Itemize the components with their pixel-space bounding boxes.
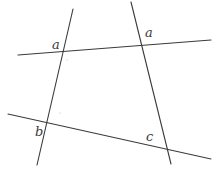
angle-label-a-left: a: [52, 37, 60, 52]
faint-dot: [66, 59, 67, 60]
faint-dot: [59, 112, 60, 113]
angle-label-a-right: a: [145, 25, 153, 40]
angle-label-b: b: [35, 124, 43, 139]
angle-diagram: a a b c: [0, 0, 216, 175]
left-transversal-line: [37, 9, 73, 165]
top-line: [18, 40, 211, 55]
angle-label-c: c: [146, 129, 154, 144]
